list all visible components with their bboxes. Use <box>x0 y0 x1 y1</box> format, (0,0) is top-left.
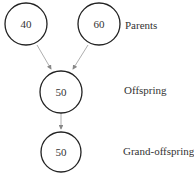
edge-parent1-offspring <box>37 45 51 69</box>
node-parent-2: 60 <box>78 3 120 45</box>
edge-parent2-offspring <box>73 45 88 69</box>
node-grand-offspring: 50 <box>41 132 81 172</box>
node-parent-1: 40 <box>5 3 47 45</box>
node-offspring: 50 <box>40 71 82 113</box>
label-offspring: Offspring <box>124 84 167 96</box>
node-value: 50 <box>56 146 68 158</box>
node-value: 50 <box>56 86 68 98</box>
label-grand-offspring: Grand-offspring <box>123 145 194 157</box>
node-value: 60 <box>94 18 106 30</box>
node-value: 40 <box>21 18 33 30</box>
label-parents: Parents <box>125 19 157 31</box>
inheritance-diagram: 40 60 50 50 Parents Offspring Grand-offs… <box>0 0 194 176</box>
